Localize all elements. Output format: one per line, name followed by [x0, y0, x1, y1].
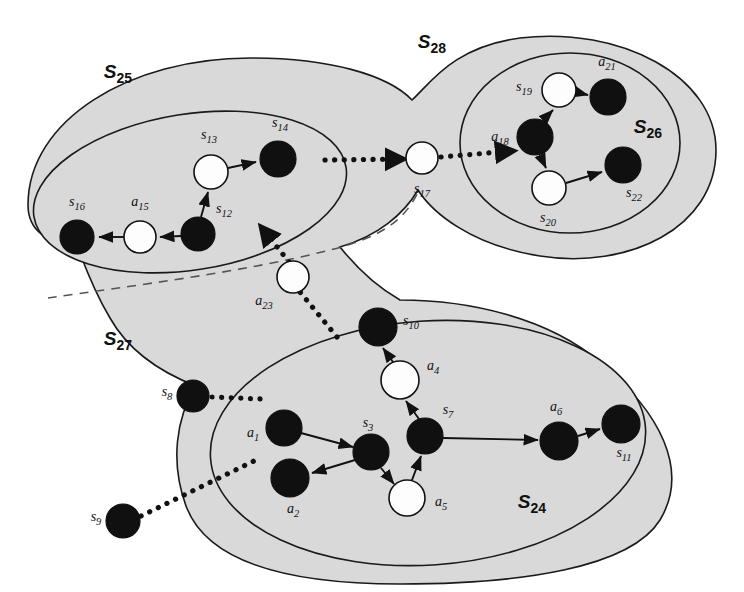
graph-node-s11[interactable] [602, 405, 640, 443]
region-label-S28: S28 [418, 31, 446, 56]
diagram-canvas: s16a15s12s13s14s17a18s19a21s20s22a23s8s9… [0, 0, 744, 592]
edge-dotted-s14-s17 [325, 159, 402, 160]
graph-node-a23[interactable] [277, 261, 309, 293]
graph-node-s13[interactable] [194, 155, 228, 189]
graph-node-a5[interactable] [389, 480, 425, 516]
graph-node-s19[interactable] [542, 73, 576, 107]
graph-node-a4[interactable] [381, 361, 419, 399]
graph-node-s14[interactable] [260, 141, 296, 177]
graph-node-s22[interactable] [605, 147, 641, 183]
graph-node-a2[interactable] [271, 459, 309, 497]
node-label-s9: s9 [91, 509, 102, 527]
graph-node-a18[interactable] [517, 119, 553, 155]
graph-node-s9[interactable] [106, 504, 140, 538]
graph-node-s7[interactable] [407, 418, 443, 454]
graph-node-s3[interactable] [353, 434, 389, 470]
region-label-S25: S25 [104, 61, 132, 86]
graph-node-s8[interactable] [177, 380, 209, 412]
graph-node-s16[interactable] [60, 220, 94, 254]
graph-node-s20[interactable] [532, 171, 566, 205]
graph-node-a1[interactable] [266, 410, 302, 446]
graph-node-s10[interactable] [359, 308, 397, 346]
edge-s12-a15 [160, 236, 181, 237]
graph-node-a6[interactable] [540, 422, 578, 460]
graph-node-s17[interactable] [406, 142, 438, 174]
abstraction-graph-svg: s16a15s12s13s14s17a18s19a21s20s22a23s8s9… [0, 0, 744, 592]
node-label-s8: s8 [162, 384, 173, 402]
graph-node-s12[interactable] [181, 217, 215, 251]
graph-node-a21[interactable] [590, 79, 626, 115]
graph-node-a15[interactable] [124, 221, 156, 253]
